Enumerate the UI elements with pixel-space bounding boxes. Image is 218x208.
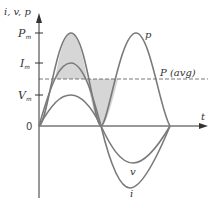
curve-label-i: i xyxy=(130,188,133,199)
power-waveform-diagram: i, v, p Pm Im Vm 0 t p v i P (avg) xyxy=(0,0,218,208)
x-axis-arrow-icon xyxy=(199,123,208,129)
y-axis-label: i, v, p xyxy=(4,6,31,17)
tick-label-im: Im xyxy=(19,57,30,70)
x-axis-label: t xyxy=(201,111,206,122)
tick-label-pm: Pm xyxy=(17,27,31,40)
curve-label-v: v xyxy=(130,166,136,177)
curve-label-p: p xyxy=(145,29,152,40)
origin-label: 0 xyxy=(26,121,32,132)
y-axis-arrow-icon xyxy=(36,13,42,23)
tick-label-vm: Vm xyxy=(18,89,32,102)
avg-power-label: P (avg) xyxy=(159,67,196,78)
